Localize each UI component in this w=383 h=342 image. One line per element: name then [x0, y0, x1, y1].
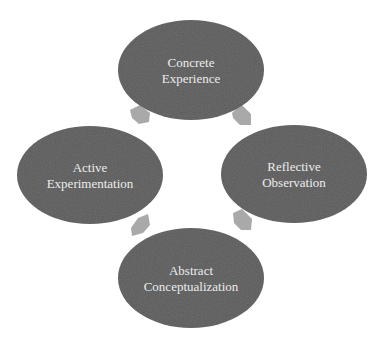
arrow-abstract-to-active [131, 214, 150, 236]
node-concrete-experience: Concrete Experience [118, 20, 264, 120]
node-abstract-conceptualization: Abstract Conceptualization [118, 228, 264, 328]
node-label-line-1: Concrete [168, 55, 215, 70]
node-shape [118, 20, 264, 120]
learning-cycle-diagram: Concrete Experience Reflective Observati… [0, 0, 383, 342]
node-label-line-2: Experience [162, 71, 221, 86]
node-label-line-1: Reflective [267, 159, 321, 174]
node-reflective-observation: Reflective Observation [221, 125, 367, 223]
node-label-line-2: Experimentation [47, 176, 134, 191]
node-label-line-1: Active [73, 160, 108, 175]
node-shape [221, 125, 367, 223]
node-shape [17, 126, 163, 224]
node-label-line-2: Conceptualization [144, 279, 239, 294]
node-shape [118, 228, 264, 328]
node-label-line-1: Abstract [169, 263, 213, 278]
node-active-experimentation: Active Experimentation [17, 126, 163, 224]
arrow-left-up-icon [131, 214, 150, 236]
node-label-line-2: Observation [262, 175, 326, 190]
